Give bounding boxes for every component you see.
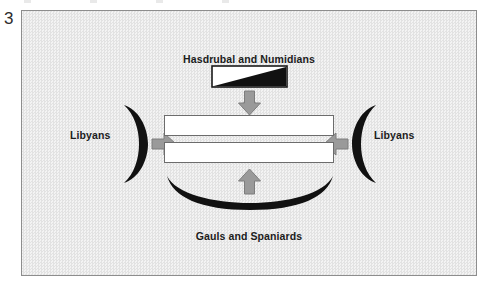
crescent-bottom [167, 176, 333, 210]
crescent-right [352, 105, 376, 183]
figure-number: 3 [4, 9, 13, 29]
wedge-outline [212, 66, 287, 87]
arrow-up-shape [239, 169, 261, 194]
label-gauls-spaniards: Gauls and Spaniards [22, 230, 476, 242]
scan-artifact [222, 0, 229, 3]
label-libyans-right: Libyans [374, 129, 414, 141]
diagram-panel: Hasdrubal and Numidians Gauls and Spania… [21, 10, 477, 276]
unit-hasdrubal-numidians [212, 66, 287, 87]
unit-libyans-right [352, 105, 376, 183]
scan-artifact [90, 0, 97, 3]
unit-libyans-left [124, 105, 148, 183]
roman-block-rear [164, 142, 334, 163]
arrow-down-shape [239, 91, 261, 115]
arrow-down-icon [239, 91, 261, 115]
roman-block-front [164, 115, 334, 136]
scan-artifact [24, 0, 31, 3]
label-libyans-left: Libyans [70, 129, 110, 141]
crescent-left [124, 105, 148, 183]
figure-root: 3 [0, 0, 487, 287]
wedge-fill [213, 67, 286, 86]
arrow-up-icon [239, 169, 261, 194]
scan-artifact [156, 0, 163, 3]
unit-gauls-spaniards [167, 176, 333, 210]
label-hasdrubal-numidians: Hasdrubal and Numidians [22, 53, 476, 65]
